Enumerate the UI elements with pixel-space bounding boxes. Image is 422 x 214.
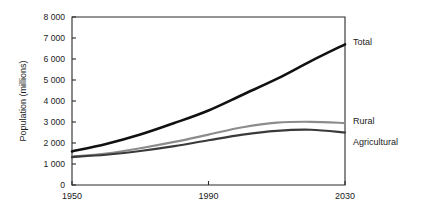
series-label-rural: Rural bbox=[353, 116, 375, 126]
y-axis-tick-label: 8 000 bbox=[43, 12, 65, 22]
x-axis-tick-label: 1950 bbox=[62, 191, 82, 201]
y-axis-tick-label: 1 000 bbox=[43, 159, 65, 169]
y-axis-title: Population (millions) bbox=[18, 60, 28, 141]
x-axis-tick-labels: 195019902030 bbox=[62, 191, 355, 201]
y-axis-tick-label: 3 000 bbox=[43, 117, 65, 127]
x-axis-tick-label: 2030 bbox=[335, 191, 355, 201]
population-line-chart: 01 0002 0003 0004 0005 0006 0007 0008 00… bbox=[0, 0, 422, 214]
y-axis-tick-labels: 01 0002 0003 0004 0005 0006 0007 0008 00… bbox=[43, 12, 65, 190]
series-labels: TotalRuralAgricultural bbox=[353, 37, 398, 147]
plot-frame-path bbox=[72, 17, 345, 185]
plot-frame bbox=[72, 17, 345, 185]
y-axis-tick-label: 0 bbox=[60, 180, 65, 190]
y-axis-tick-label: 2 000 bbox=[43, 138, 65, 148]
x-axis-tick-label: 1990 bbox=[198, 191, 218, 201]
y-axis-ticks bbox=[72, 17, 76, 185]
series-label-total: Total bbox=[353, 37, 372, 47]
y-axis-tick-label: 6 000 bbox=[43, 54, 65, 64]
chart-canvas: 01 0002 0003 0004 0005 0006 0007 0008 00… bbox=[0, 0, 422, 214]
x-axis-ticks bbox=[72, 181, 345, 185]
y-axis-tick-label: 7 000 bbox=[43, 33, 65, 43]
series-lines bbox=[72, 44, 345, 157]
y-axis-tick-label: 5 000 bbox=[43, 75, 65, 85]
series-label-agricultural: Agricultural bbox=[353, 137, 398, 147]
y-axis-tick-label: 4 000 bbox=[43, 96, 65, 106]
